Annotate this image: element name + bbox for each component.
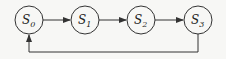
state-node-s3: S3 <box>184 6 212 34</box>
state-node-s1: S1 <box>71 6 99 34</box>
edge-s3-s0-feedback <box>29 34 198 52</box>
state-node-s2: S2 <box>127 6 155 34</box>
state-node-s0: S0 <box>15 6 43 34</box>
state-diagram: S0 S1 S2 S3 <box>0 0 226 59</box>
